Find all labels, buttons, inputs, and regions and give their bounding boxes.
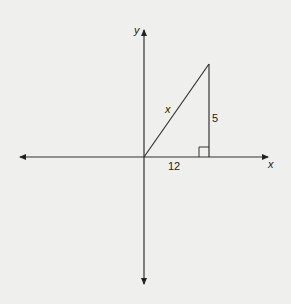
hypotenuse <box>144 64 209 157</box>
coordinate-diagram: y x x 5 12 <box>0 0 291 304</box>
hypotenuse-label: x <box>164 103 171 115</box>
height-label: 5 <box>212 112 218 124</box>
base-label: 12 <box>168 160 180 172</box>
y-axis-label: y <box>133 24 141 36</box>
right-angle-marker <box>199 147 209 157</box>
x-axis-label: x <box>267 158 274 170</box>
